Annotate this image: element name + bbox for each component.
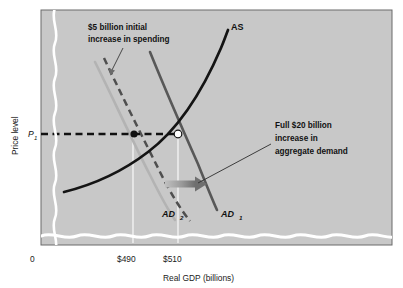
ad2-curve-label-text: AD — [161, 209, 175, 219]
ad1-curve-label-text: AD — [220, 209, 234, 219]
price-level-tick-subscript: 1 — [34, 135, 37, 141]
initial-equilibrium-point — [130, 130, 137, 137]
ad2-curve-label-subscript: 2 — [179, 214, 184, 221]
x-tick-label-510: $510 — [163, 254, 182, 264]
as-curve-label: AS — [231, 22, 244, 32]
annotation-full-increase-line2: increase in — [275, 134, 318, 143]
x-tick-label-490: $490 — [117, 254, 136, 264]
annotation-initial-spending-line2: increase in spending — [88, 35, 169, 44]
annotation-full-increase-line3: aggregate demand — [275, 147, 348, 156]
origin-label: 0 — [30, 254, 35, 264]
annotation-initial-spending-line1: $5 billion initial — [88, 23, 147, 32]
y-axis-label: Price level — [10, 116, 20, 155]
as-ad-multiplier-figure: $5 billion initial increase in spending … — [0, 0, 403, 288]
annotation-full-increase-line1: Full $20 billion — [275, 121, 332, 130]
ad1-curve-label-subscript: 1 — [239, 214, 243, 221]
new-equilibrium-point — [174, 130, 182, 138]
x-axis-label: Real GDP (billions) — [163, 273, 234, 283]
